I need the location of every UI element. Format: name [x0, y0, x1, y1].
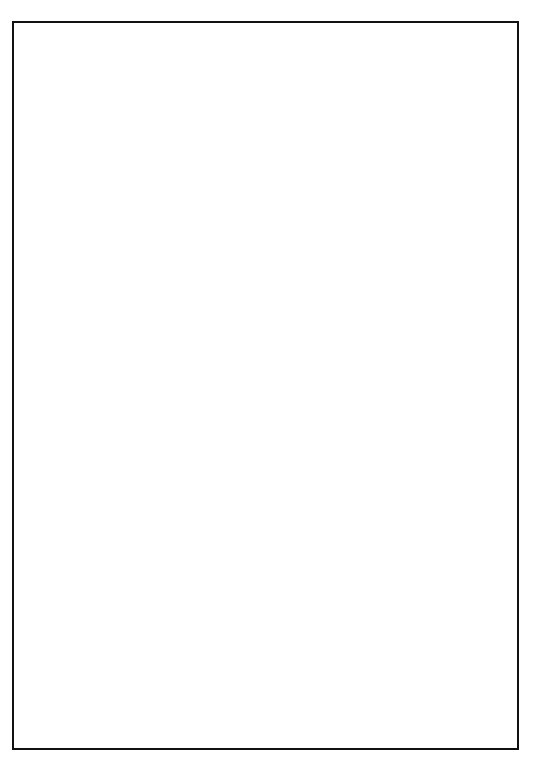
- egm-traces: [0, 0, 536, 762]
